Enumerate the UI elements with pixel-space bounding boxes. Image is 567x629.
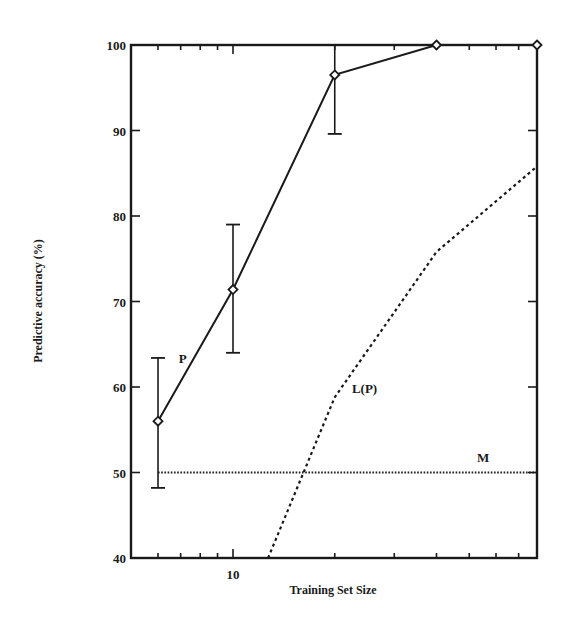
x-tick-label: 10 — [227, 567, 240, 582]
series-labels: PL(P)M — [179, 351, 490, 465]
series-layer — [151, 41, 541, 559]
diamond-marker — [432, 41, 441, 50]
diamond-marker — [330, 70, 339, 79]
accuracy-chart: 10 405060708090100 PL(P)M Training Set S… — [0, 0, 567, 629]
y-tick-label: 50 — [113, 466, 126, 481]
y-tick-label: 80 — [113, 209, 126, 224]
y-tick-label: 90 — [113, 124, 126, 139]
x-axis-label: Training Set Size — [289, 583, 377, 597]
y-tick-label: 60 — [113, 380, 126, 395]
y-axis-label: Predictive accuracy (%) — [31, 239, 45, 363]
series-label-p: P — [179, 351, 187, 366]
series-line-p — [158, 45, 537, 421]
series-label-l-p: L(P) — [352, 381, 377, 396]
y-axis-ticks: 405060708090100 — [107, 38, 538, 566]
diamond-marker — [229, 285, 238, 294]
y-tick-label: 70 — [113, 295, 126, 310]
x-axis-ticks: 10 — [158, 45, 519, 582]
diamond-marker — [154, 417, 163, 426]
diamond-marker — [533, 41, 542, 50]
series-line-l-p — [268, 166, 537, 558]
y-tick-label: 40 — [113, 551, 126, 566]
series-label-m: M — [477, 450, 489, 465]
y-tick-label: 100 — [107, 38, 127, 53]
